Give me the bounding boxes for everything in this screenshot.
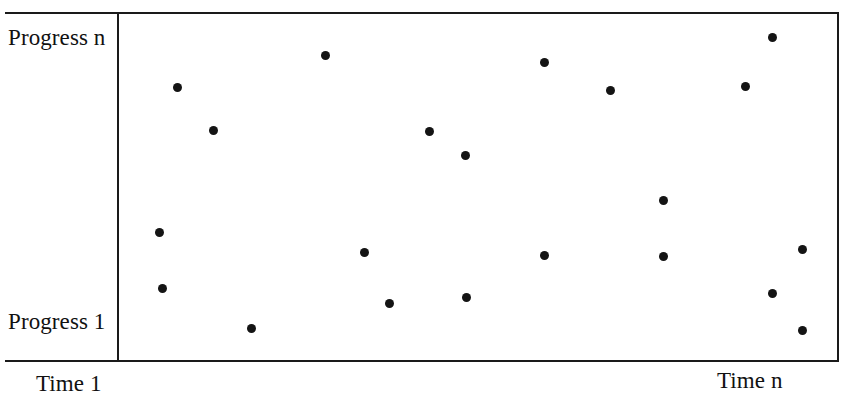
data-point	[461, 151, 470, 160]
data-point	[540, 251, 549, 260]
y-axis-top-label: Progress n	[8, 26, 105, 49]
data-point	[768, 289, 777, 298]
data-point	[540, 58, 549, 67]
data-point	[425, 127, 434, 136]
data-point	[462, 293, 471, 302]
data-point	[798, 326, 807, 335]
x-axis-right-label: Time n	[717, 369, 783, 392]
data-point	[385, 299, 394, 308]
data-point	[209, 126, 218, 135]
bottom-frame-rule	[5, 360, 839, 362]
plot-area	[119, 14, 837, 360]
scatter-plot-figure: Progress n Progress 1 Time 1 Time n	[0, 0, 848, 403]
data-point	[659, 196, 668, 205]
data-point	[741, 82, 750, 91]
data-point	[247, 324, 256, 333]
data-point	[360, 248, 369, 257]
data-point	[155, 228, 164, 237]
data-point	[158, 284, 167, 293]
y-axis-bottom-label: Progress 1	[8, 310, 105, 333]
x-axis-left-label: Time 1	[36, 372, 102, 395]
data-point	[659, 252, 668, 261]
data-point	[173, 83, 182, 92]
data-point	[798, 245, 807, 254]
data-point	[606, 86, 615, 95]
data-point	[768, 33, 777, 42]
right-frame-rule	[837, 12, 839, 362]
data-point	[321, 51, 330, 60]
